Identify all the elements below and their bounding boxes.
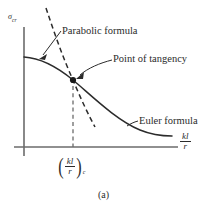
- tick-right-paren: ): [76, 158, 81, 176]
- y-axis-label: σcr: [8, 13, 17, 23]
- annotation-point-of-tangency: Point of tangency: [113, 54, 187, 65]
- point-of-tangency-marker: [70, 77, 76, 83]
- tangency-leader-line: [80, 60, 112, 75]
- tick-fraction: kl r: [65, 157, 76, 177]
- annotation-euler-formula: Euler formula: [139, 116, 198, 127]
- figure-caption: (a): [0, 190, 207, 200]
- x-axis-tick-label-critical: ( kl r ) c: [57, 157, 86, 177]
- tick-subscript: c: [83, 169, 86, 177]
- annotation-parabolic-formula: Parabolic formula: [62, 26, 138, 37]
- x-axis-denominator: r: [180, 142, 191, 151]
- y-axis-subscript: cr: [12, 17, 17, 23]
- x-axis-label: kl r: [180, 132, 191, 152]
- tick-left-paren: (: [58, 158, 63, 176]
- tangency-leader-arrowhead: [76, 72, 84, 79]
- figure-column-buckling-diagram: σcr Parabolic formula Point of tangency …: [0, 0, 207, 210]
- tick-denominator: r: [65, 167, 76, 176]
- x-axis-fraction: kl r: [180, 132, 191, 152]
